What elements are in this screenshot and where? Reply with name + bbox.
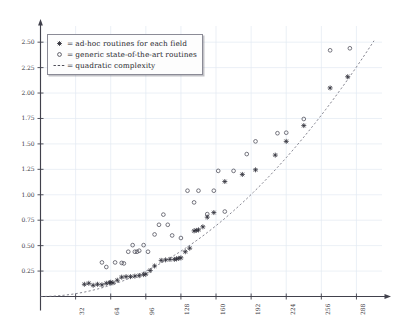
y-tick-label: 0.25: [13, 267, 35, 274]
quadratic-complexity-curve: [41, 41, 375, 297]
x-tick-label: 224: [289, 303, 296, 314]
x-tick-label: 32: [78, 307, 85, 314]
x-tick-label: 128: [183, 303, 190, 314]
axis-ticks: [38, 42, 357, 299]
legend-item-quadratic: = quadratic complexity: [52, 60, 197, 71]
legend-item-generic: = generic state-of-the-art routines: [52, 49, 197, 60]
x-tick-label: 288: [359, 303, 366, 314]
x-tick-label: 256: [324, 303, 331, 314]
circle-marker-icon: [52, 50, 67, 59]
x-tick-label: 192: [254, 303, 261, 314]
chart-legend: = ad-hoc routines for each field = gener…: [47, 34, 203, 75]
x-tick-label: 64: [113, 307, 120, 314]
y-tick-label: 2.00: [13, 89, 35, 96]
star-marker-icon: [52, 39, 67, 48]
x-tick-label: 160: [219, 303, 226, 314]
legend-equals-sign-3: =: [67, 61, 75, 70]
y-tick-label: 1.75: [13, 114, 35, 121]
y-tick-label: 2.25: [13, 64, 35, 71]
legend-label-quadratic: quadratic complexity: [75, 61, 155, 70]
dashed-line-icon: [52, 61, 67, 70]
y-tick-label: 0.50: [13, 242, 35, 249]
legend-item-ad-hoc: = ad-hoc routines for each field: [52, 38, 197, 49]
series-generic-state-of-the-art-routines: [100, 46, 352, 268]
legend-label-ad-hoc: ad-hoc routines for each field: [75, 39, 187, 48]
y-tick-label: 2.50: [13, 38, 35, 45]
y-tick-label: 0.75: [13, 216, 35, 223]
x-tick-label: 96: [148, 307, 155, 314]
legend-equals-sign-1: =: [67, 39, 75, 48]
y-tick-label: 1.00: [13, 191, 35, 198]
legend-equals-sign-2: =: [67, 50, 75, 59]
legend-label-generic: generic state-of-the-art routines: [75, 50, 197, 59]
y-tick-label: 1.25: [13, 165, 35, 172]
y-tick-label: 1.50: [13, 140, 35, 147]
chart-container: 0.250.500.751.001.251.501.752.002.252.50…: [0, 0, 403, 329]
